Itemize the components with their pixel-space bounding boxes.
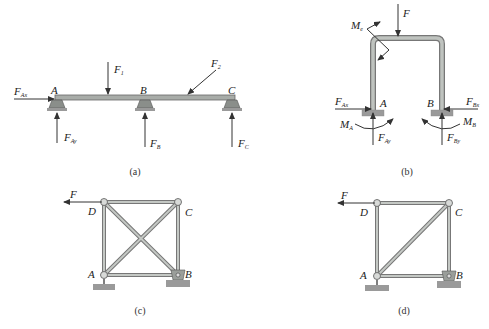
label-mb: MB bbox=[462, 115, 476, 128]
label-point-d: D bbox=[359, 206, 368, 218]
moment-ma-icon bbox=[355, 119, 393, 129]
label-point-b: B bbox=[427, 97, 434, 109]
label-point-a: A bbox=[379, 97, 387, 109]
support-a-icon bbox=[365, 280, 389, 291]
label-point-c: C bbox=[185, 206, 193, 218]
moment-mb-icon bbox=[422, 119, 460, 129]
label-point-b: B bbox=[140, 84, 147, 96]
label-f2: F2 bbox=[210, 57, 221, 70]
caption-b: (b) bbox=[401, 166, 413, 178]
label-point-a: A bbox=[359, 269, 367, 281]
support-a-icon bbox=[93, 279, 115, 290]
label-point-b: B bbox=[185, 268, 192, 280]
label-fax: FAx bbox=[13, 85, 27, 98]
label-point-b: B bbox=[456, 269, 463, 281]
label-fbx: FBx bbox=[465, 95, 479, 108]
caption-a: (a) bbox=[129, 166, 140, 178]
label-fay: FAy bbox=[377, 131, 391, 144]
label-fc: FC bbox=[237, 137, 250, 150]
label-f1: F1 bbox=[113, 63, 124, 76]
figure-c-truss: F D C A B (c) bbox=[64, 188, 193, 317]
label-point-a: A bbox=[87, 268, 95, 280]
label-me: Me bbox=[350, 19, 363, 32]
joint-c-icon bbox=[175, 199, 182, 206]
label-ma: MA bbox=[339, 118, 353, 131]
statics-diagrams: FAx A FAy F1 B FB F2 C FC (a) F Me FAx A… bbox=[0, 0, 489, 329]
joint-a-icon bbox=[374, 273, 381, 280]
label-fby: FBy bbox=[446, 131, 460, 144]
label-f: F bbox=[340, 189, 348, 201]
figure-a-beam: FAx A FAy F1 B FB F2 C FC (a) bbox=[13, 57, 250, 178]
figure-b-frame: F Me FAx A FAy MA FBx B FBy MB (b) bbox=[334, 4, 479, 178]
joint-a-icon bbox=[101, 272, 108, 279]
label-point-d: D bbox=[87, 205, 96, 217]
support-a-icon bbox=[47, 100, 67, 111]
label-point-c: C bbox=[228, 84, 236, 96]
caption-c: (c) bbox=[134, 305, 145, 317]
label-f: F bbox=[69, 188, 77, 200]
label-fay: FAy bbox=[63, 131, 77, 144]
support-b-icon bbox=[135, 100, 155, 111]
figure-d-truss: F D C A B (d) bbox=[338, 189, 463, 317]
caption-d: (d) bbox=[398, 305, 410, 317]
label-fb: FB bbox=[149, 137, 161, 150]
label-point-c: C bbox=[455, 206, 463, 218]
force-f2-arrow bbox=[188, 70, 216, 94]
label-point-a: A bbox=[50, 84, 58, 96]
joint-c-icon bbox=[446, 200, 453, 207]
support-c-icon bbox=[222, 100, 242, 111]
label-fax: FAx bbox=[334, 95, 348, 108]
label-f: F bbox=[402, 7, 410, 19]
